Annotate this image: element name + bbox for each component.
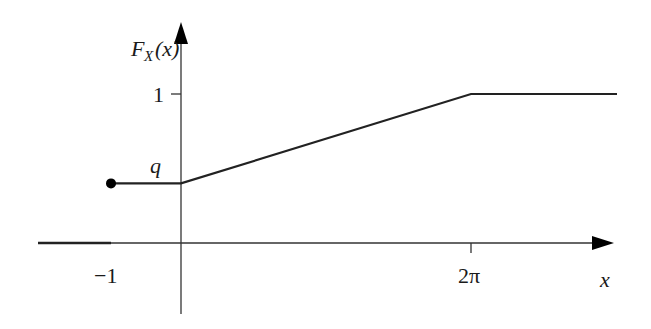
- annotation-q: q: [150, 153, 161, 178]
- x-axis-label: x: [599, 267, 610, 292]
- axes: [38, 22, 614, 314]
- labels: F X (x) x q 1 −1 2π: [94, 36, 610, 292]
- y-tick-label-1: 1: [153, 82, 164, 107]
- closed-dot-marker: [106, 178, 116, 188]
- series: [38, 94, 617, 243]
- series-line-1: [111, 94, 617, 183]
- x-tick-label-2pi: 2π: [458, 263, 480, 288]
- y-axis-label-sub: X: [143, 48, 154, 64]
- y-axis-label-arg: (x): [155, 36, 179, 61]
- cdf-chart: F X (x) x q 1 −1 2π: [0, 0, 651, 329]
- x-tick-label-neg1: −1: [94, 263, 117, 288]
- x-axis-arrowhead: [592, 236, 614, 250]
- y-axis-label-main: F: [130, 36, 145, 61]
